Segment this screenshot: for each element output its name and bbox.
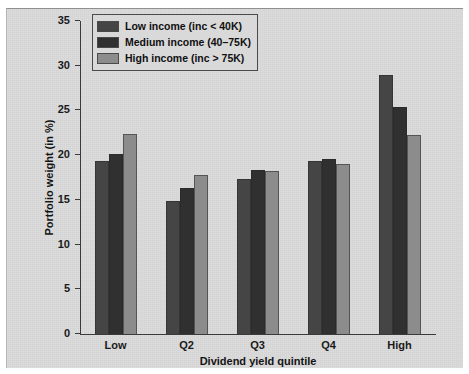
legend-swatch-icon (97, 53, 119, 64)
bar-group: High (379, 21, 421, 334)
bar (393, 107, 407, 334)
bar (237, 179, 251, 334)
chart-legend: Low income (inc < 40K)Medium income (40–… (92, 14, 258, 71)
y-axis-tick: 0 (75, 333, 80, 334)
x-axis-tick-label: Low (86, 340, 146, 351)
y-axis-tick-label: 30 (58, 59, 70, 70)
bar (407, 135, 421, 334)
legend-item-label: Low income (inc < 40K) (125, 21, 242, 32)
bar (308, 161, 322, 334)
legend-swatch-icon (97, 37, 119, 48)
y-axis-tick: 30 (75, 65, 80, 66)
y-axis-tick: 35 (75, 20, 80, 21)
y-axis-title: Portfolio weight (in %) (44, 21, 58, 334)
bar (265, 171, 279, 334)
x-axis-tick-label: High (370, 340, 430, 351)
y-axis-tick: 20 (75, 154, 80, 155)
bar (180, 188, 194, 334)
chart-figure: 05101520253035LowQ2Q3Q4High Dividend yie… (0, 0, 469, 374)
y-axis-tick-label: 15 (58, 193, 70, 204)
x-axis-tick-label: Q2 (157, 340, 217, 351)
x-axis-line (80, 334, 436, 335)
y-axis-tick-label: 0 (64, 328, 70, 339)
legend-item-label: Medium income (40–75K) (125, 37, 251, 48)
bar (251, 170, 265, 334)
y-axis-tick: 10 (75, 244, 80, 245)
bar (194, 175, 208, 334)
y-axis-tick: 15 (75, 199, 80, 200)
x-axis-title: Dividend yield quintile (80, 356, 436, 367)
legend-swatch-icon (97, 21, 119, 32)
y-axis-tick-label: 10 (58, 238, 70, 249)
bar (166, 201, 180, 334)
y-axis-tick-label: 35 (58, 15, 70, 26)
y-axis-tick: 5 (75, 288, 80, 289)
bar (95, 161, 109, 334)
legend-item: High income (inc > 75K) (97, 50, 251, 66)
y-axis-tick-label: 20 (58, 149, 70, 160)
legend-item-label: High income (inc > 75K) (125, 53, 244, 64)
bar (336, 164, 350, 334)
legend-item: Low income (inc < 40K) (97, 18, 251, 34)
bar (109, 154, 123, 334)
bar (379, 75, 393, 334)
bar-group: Q4 (308, 21, 350, 334)
legend-item: Medium income (40–75K) (97, 34, 251, 50)
y-axis-tick-label: 25 (58, 104, 70, 115)
x-axis-tick-label: Q3 (228, 340, 288, 351)
bar (322, 159, 336, 334)
y-axis-tick-label: 5 (64, 283, 70, 294)
x-axis-tick-label: Q4 (299, 340, 359, 351)
bar (123, 134, 137, 334)
y-axis-tick: 25 (75, 109, 80, 110)
